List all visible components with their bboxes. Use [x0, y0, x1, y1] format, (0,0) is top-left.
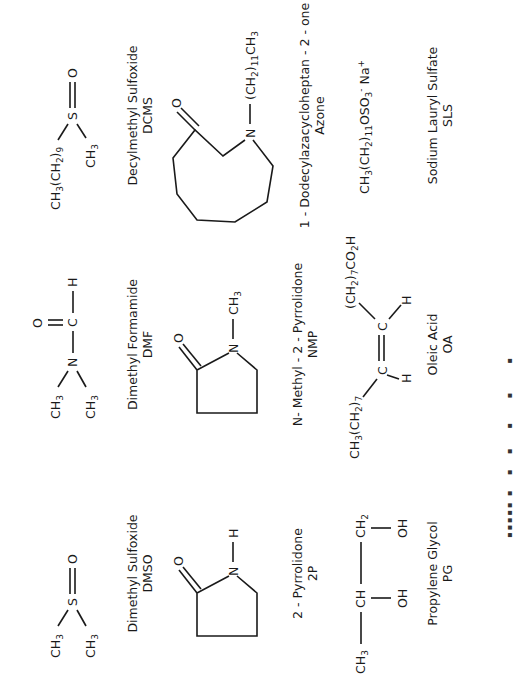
azone-label: 1 - Dodecylazacycloheptan - 2 - one Azon… — [297, 1, 327, 230]
svg-text:CH3(CH2)7: CH3(CH2)7 — [347, 396, 364, 459]
svg-text:O: O — [171, 333, 186, 343]
structure-dmf: CH3 CH3 N C O H Dimethyl Formamide DMF — [20, 230, 180, 459]
figure-caption-cutoff: ▪▪▪▪▪ ▪ ▪ ▪ ▪ ▪ ▪ — [505, 138, 514, 538]
svg-text:CH3(CH2)11OSO3- Na+: CH3(CH2)11OSO3- Na+ — [356, 60, 374, 194]
svg-text:OH: OH — [395, 519, 410, 538]
dcms-label: Decylmethyl Sulfoxide DCMS — [125, 1, 155, 230]
svg-text:C: C — [375, 322, 390, 331]
structure-propylene-glycol: CH3 CH CH2 OH OH Propylene Glycol PG — [345, 459, 505, 688]
structure-oleic-acid: CH3(CH2)7 H C C (CH2)7CO2H H Oleic Acid … — [345, 230, 505, 459]
svg-text:CH: CH — [353, 590, 368, 608]
svg-text:O: O — [171, 556, 186, 566]
svg-text:CH3: CH3 — [83, 144, 100, 168]
svg-text:N: N — [243, 129, 258, 138]
2p-label: 2 - Pyrrolidone 2P — [290, 459, 320, 688]
dmf-structure-drawing: CH3 CH3 N C O H — [20, 230, 130, 459]
compound-name: Propylene Glycol — [425, 521, 440, 625]
svg-text:H: H — [65, 278, 80, 287]
compound-name: Oleic Acid — [425, 314, 440, 376]
svg-text:C: C — [375, 366, 390, 375]
svg-text:CH3: CH3 — [83, 634, 100, 658]
svg-text:C: C — [65, 318, 80, 327]
dmso-structure-drawing: CH3 CH3 S O — [20, 459, 130, 688]
svg-text:CH2: CH2 — [353, 514, 370, 538]
svg-text:O: O — [65, 68, 80, 78]
svg-text:S: S — [65, 598, 80, 606]
compound-abbr: OA — [440, 230, 455, 459]
svg-text:CH3: CH3 — [83, 395, 100, 419]
compound-abbr: SLS — [440, 1, 455, 230]
svg-text:O: O — [169, 98, 184, 108]
structure-2-pyrrolidone: O N H 2 - Pyrrolidone 2P — [175, 459, 335, 688]
svg-text:N: N — [65, 358, 80, 367]
compound-name: N- Methyl - 2 - Pyrrolidone — [290, 263, 305, 426]
compound-abbr: Azone — [312, 1, 327, 230]
svg-text:CH3(CH2)9: CH3(CH2)9 — [48, 146, 65, 210]
svg-text:O: O — [30, 318, 45, 328]
svg-text:O: O — [65, 554, 80, 564]
structure-nmp: O N CH3 N- Methyl - 2 - Pyrrolidone NMP — [175, 230, 335, 459]
pg-label: Propylene Glycol PG — [425, 459, 455, 688]
svg-text:H: H — [399, 374, 414, 383]
svg-text:(CH2)7CO2H: (CH2)7CO2H — [343, 236, 360, 309]
nmp-label: N- Methyl - 2 - Pyrrolidone NMP — [290, 230, 320, 459]
compound-name: Dimethyl Sulfoxide — [125, 514, 140, 632]
compound-name: 2 - Pyrrolidone — [290, 528, 305, 619]
structure-dcms: CH3(CH2)9 CH3 S O Decylmethyl Sulfoxide … — [20, 1, 180, 230]
compound-abbr: NMP — [305, 230, 320, 459]
svg-text:CH3: CH3 — [226, 291, 243, 315]
compound-abbr: DMF — [140, 230, 155, 459]
compound-abbr: 2P — [305, 459, 320, 688]
svg-text:CH3: CH3 — [353, 650, 370, 674]
svg-text:H: H — [399, 296, 414, 305]
svg-text:(CH2)11CH3: (CH2)11CH3 — [243, 31, 260, 100]
compound-name: Decylmethyl Sulfoxide — [125, 45, 140, 185]
svg-text:CH3: CH3 — [48, 395, 65, 419]
structure-dmso: CH3 CH3 S O Dimethyl Sulfoxide DMSO — [20, 459, 180, 688]
sls-label: Sodium Lauryl Sulfate SLS — [425, 1, 455, 230]
nmp-structure-drawing: O N CH3 — [175, 230, 295, 459]
svg-text:S: S — [65, 112, 80, 120]
compound-abbr: DMSO — [140, 459, 155, 688]
compound-abbr: DCMS — [140, 1, 155, 230]
structure-azone: O N (CH2)11CH3 1 - Dodecylazacycloheptan… — [175, 1, 335, 230]
svg-text:H: H — [226, 529, 241, 538]
compound-name: Dimethyl Formamide — [125, 279, 140, 410]
svg-text:CH3: CH3 — [48, 634, 65, 658]
svg-text:OH: OH — [395, 589, 410, 608]
dcms-structure-drawing: CH3(CH2)9 CH3 S O — [20, 1, 130, 230]
dmf-label: Dimethyl Formamide DMF — [125, 230, 155, 459]
dmso-label: Dimethyl Sulfoxide DMSO — [125, 459, 155, 688]
2p-structure-drawing: O N H — [175, 459, 295, 688]
compound-name: Sodium Lauryl Sulfate — [425, 47, 440, 185]
svg-text:N: N — [226, 344, 241, 353]
compound-name: 1 - Dodecylazacycloheptan - 2 - one — [297, 3, 312, 228]
compound-abbr: PG — [440, 459, 455, 688]
structure-sls: CH3(CH2)11OSO3- Na+ Sodium Lauryl Sulfat… — [345, 1, 505, 230]
svg-text:N: N — [226, 567, 241, 576]
azone-structure-drawing: O N (CH2)11CH3 — [175, 1, 305, 230]
figure-page: CH3 CH3 S O Dimethyl Sulfoxide DMSO CH3 … — [0, 0, 518, 688]
oa-label: Oleic Acid OA — [425, 230, 455, 459]
